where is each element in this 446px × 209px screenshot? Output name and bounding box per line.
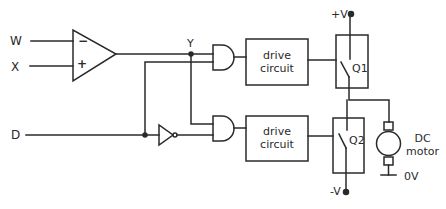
- node-y-label: Y: [187, 38, 194, 49]
- motor-label-line1: DC: [406, 132, 439, 145]
- circuit-diagram: W X D − + Y drive circuit drive circuit …: [0, 0, 446, 209]
- motor-icon: [377, 132, 401, 156]
- terminal-minusv-icon: [344, 190, 349, 195]
- drive-lower-line1: drive: [246, 125, 308, 138]
- and-gate-lower-icon: [213, 116, 234, 141]
- input-label-w: W: [10, 35, 22, 47]
- switch-q2-label: Q2: [349, 135, 365, 146]
- drive-upper-line2: circuit: [246, 62, 308, 75]
- supply-positive-label: +V: [331, 9, 348, 20]
- motor-label: DC motor: [406, 132, 439, 158]
- terminal-plusv-icon: [349, 12, 354, 17]
- opamp-minus-label: −: [78, 35, 88, 47]
- drive-upper-line1: drive: [246, 49, 308, 62]
- ground-label: 0V: [404, 171, 419, 182]
- motor-brush-top-icon: [384, 122, 393, 130]
- wire-q1-to-motor: [349, 77, 389, 122]
- and-gate-upper-icon: [213, 45, 234, 70]
- input-label-d: D: [11, 129, 20, 141]
- schematic-wires: [0, 0, 446, 209]
- input-label-x: X: [11, 61, 19, 73]
- wire-y-to-lower-and: [191, 54, 213, 124]
- supply-negative-label: -V: [330, 186, 341, 197]
- not-gate-icon: [159, 125, 173, 145]
- drive-circuit-lower-label: drive circuit: [246, 125, 308, 151]
- motor-label-line2: motor: [406, 145, 439, 158]
- drive-lower-line2: circuit: [246, 138, 308, 151]
- switch-q1-label: Q1: [352, 63, 368, 74]
- q1-switch-blade-icon: [341, 62, 349, 77]
- motor-brush-bottom-icon: [384, 157, 393, 165]
- drive-circuit-upper-label: drive circuit: [246, 49, 308, 75]
- opamp-plus-label: +: [77, 58, 87, 70]
- q2-switch-blade-icon: [339, 134, 346, 148]
